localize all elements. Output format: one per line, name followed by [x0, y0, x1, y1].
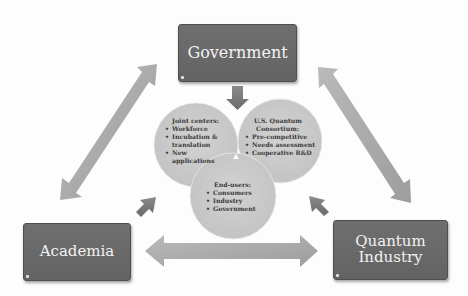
arrow-up-left-icon	[309, 196, 329, 216]
joint-centers-text: Joint centers: Workforce Incubation &tra…	[164, 117, 234, 165]
joint-centers-title: Joint centers:	[164, 117, 234, 125]
corner-marker	[336, 274, 339, 277]
consortium-text: U.S. Quantum Consortium: Pre-competitive…	[244, 117, 324, 157]
quantum-industry-label-line2: Industry	[355, 250, 425, 266]
end-users-list: Consumers Industry Government	[205, 189, 275, 213]
consortium-title-line2: Consortium:	[244, 125, 324, 133]
academia-label: Academia	[40, 244, 115, 260]
list-item: Consumers	[205, 189, 275, 197]
arrow-up-right-icon	[136, 197, 156, 217]
consortium-list: Pre-competitive Needs assessment Coopera…	[244, 133, 324, 157]
government-box: Government	[178, 24, 297, 82]
government-label: Government	[187, 45, 287, 62]
academia-box: Academia	[23, 223, 131, 281]
list-item: Workforce	[164, 125, 234, 133]
list-item: Pre-competitive	[244, 133, 324, 141]
list-item: Government	[205, 205, 275, 213]
end-users-text: End-users: Consumers Industry Government	[205, 181, 275, 213]
list-item: Incubation &translation	[164, 133, 234, 149]
double-arrow-gov-industry	[318, 67, 411, 203]
corner-marker	[181, 76, 184, 79]
double-arrow-gov-academia	[60, 64, 157, 200]
diagram-canvas: Government Academia Quantum Industry Joi…	[0, 0, 468, 296]
consortium-title-line1: U.S. Quantum	[244, 117, 324, 125]
list-item: Newapplications	[164, 149, 234, 165]
end-users-title: End-users:	[205, 181, 275, 189]
list-item: Cooperative R&D	[244, 149, 324, 157]
double-arrow-academia-industry	[145, 235, 318, 267]
joint-centers-list: Workforce Incubation &translation Newapp…	[164, 125, 234, 165]
list-item: Industry	[205, 197, 275, 205]
quantum-industry-box: Quantum Industry	[333, 220, 448, 280]
arrow-down-icon	[226, 86, 249, 110]
corner-marker	[26, 275, 29, 278]
list-item: Needs assessment	[244, 141, 324, 149]
